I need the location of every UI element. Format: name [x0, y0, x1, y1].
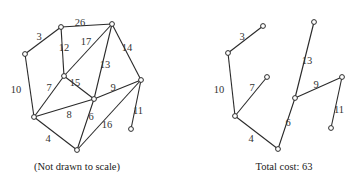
edge-A-G [25, 54, 34, 117]
edge-weight-label: 12 [59, 42, 70, 53]
edge-E-H [77, 80, 141, 150]
edge-weight-label: 16 [102, 119, 113, 130]
edge-weight-label: 14 [122, 42, 133, 53]
edge-weight-label: 15 [70, 77, 81, 88]
edge-weight-label: 9 [313, 79, 318, 90]
edge-weight-label: 10 [11, 84, 22, 95]
total-cost-caption: Total cost: 63 [255, 161, 312, 172]
node-F [293, 96, 298, 101]
node-C [312, 20, 317, 25]
node-H [75, 148, 80, 153]
edge-A-G [228, 53, 235, 116]
node-G [233, 114, 238, 119]
edge-weight-label: 9 [110, 82, 115, 93]
edge-A-B [25, 27, 61, 54]
node-B [59, 25, 64, 30]
edge-weight-label: 8 [66, 109, 71, 120]
node-A [226, 51, 231, 56]
edge-weight-label: 11 [334, 104, 344, 115]
node-F [92, 97, 97, 102]
edge-B-C [61, 24, 112, 27]
edge-weight-label: 3 [239, 31, 244, 42]
node-A [23, 52, 28, 57]
edge-weight-label: 13 [302, 55, 313, 66]
edge-weight-label: 4 [45, 133, 51, 144]
edge-weight-label: 4 [248, 133, 254, 144]
left-caption: (Not drawn to scale) [34, 161, 121, 173]
edge-F-H [77, 99, 94, 150]
node-H [276, 147, 281, 152]
edge-weight-label: 11 [133, 105, 143, 116]
node-E [139, 78, 144, 83]
node-D [265, 75, 270, 80]
edge-weight-label: 7 [249, 82, 254, 93]
node-I [329, 126, 334, 131]
node-D [62, 74, 67, 79]
right-graph-edges [228, 22, 342, 149]
edge-E-I [331, 77, 342, 128]
edge-weight-label: 17 [81, 36, 92, 47]
edge-G-F [34, 99, 94, 117]
edge-F-E [94, 80, 141, 99]
edge-weight-label: 6 [88, 111, 93, 122]
edge-weight-label: 6 [285, 117, 290, 128]
edge-weight-label: 13 [100, 59, 111, 70]
edge-G-H [235, 116, 278, 149]
node-C [110, 22, 115, 27]
edge-weight-label: 3 [36, 31, 41, 42]
edge-weight-label: 10 [214, 84, 225, 95]
edge-G-H [34, 117, 77, 150]
edge-weight-label: 7 [46, 82, 51, 93]
left-graph-weight-labels: 326121713141071589641611 [11, 17, 143, 144]
node-I [129, 127, 134, 132]
edge-weight-label: 26 [75, 17, 86, 28]
node-G [32, 115, 37, 120]
graph-canvas: 326121713141071589641611 (Not drawn to s… [0, 0, 362, 178]
node-E [340, 75, 345, 80]
node-B [261, 24, 266, 29]
edge-A-B [228, 26, 263, 53]
